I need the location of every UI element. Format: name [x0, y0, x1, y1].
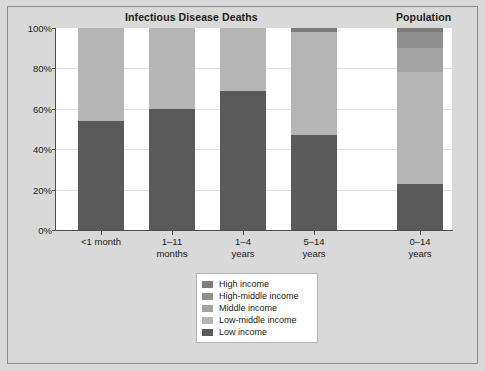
y-axis-tick-label: 60% [18, 103, 52, 114]
x-axis-line [55, 230, 453, 231]
x-axis-tick-mark [101, 231, 102, 235]
legend-item: High-middle income [202, 290, 311, 302]
x-axis-tick-label-line: 5–14 [269, 236, 359, 248]
x-axis-tick-label-line: 0–14 [375, 236, 465, 248]
legend-item-label: Low income [219, 327, 267, 337]
bar-segment [397, 72, 443, 183]
chart-legend: High incomeHigh-middle incomeMiddle inco… [196, 273, 318, 343]
bar-segment [291, 135, 337, 230]
bar-segment [291, 28, 337, 32]
bar-deaths-0 [78, 28, 124, 230]
x-axis-tick-mark [314, 231, 315, 235]
legend-item-label: High-middle income [219, 291, 299, 301]
y-axis-tick-mark [52, 230, 56, 231]
legend-item: Middle income [202, 302, 311, 314]
bar-deaths-1 [149, 28, 195, 230]
legend-item: Low-middle income [202, 314, 311, 326]
population-panel-title: Population [396, 11, 451, 23]
bar-segment [149, 109, 195, 230]
y-axis-tick-labels: 0%20%40%60%80%100% [12, 28, 52, 230]
legend-swatch-icon [202, 305, 213, 312]
legend-item-label: Middle income [219, 303, 277, 313]
y-axis-tick-label: 20% [18, 184, 52, 195]
legend-item: High income [202, 278, 311, 290]
y-axis-tick-label: 40% [18, 144, 52, 155]
x-axis-tick-label-line: years [375, 248, 465, 260]
plot-area [56, 28, 452, 230]
legend-item: Low income [202, 326, 311, 338]
bar-segment [397, 28, 443, 32]
x-axis-tick-mark [172, 231, 173, 235]
bar-segment [397, 32, 443, 48]
bar-segment [291, 32, 337, 135]
bar-segment [78, 28, 124, 121]
bar-segment [397, 48, 443, 72]
x-axis-tick-mark [243, 231, 244, 235]
deaths-panel-title: Infectious Disease Deaths [125, 11, 258, 23]
bar-deaths-3 [291, 28, 337, 230]
legend-swatch-icon [202, 317, 213, 324]
bar-segment [397, 184, 443, 230]
bar-segment [149, 28, 195, 109]
legend-item-label: Low-middle income [219, 315, 297, 325]
y-axis-tick-label: 0% [18, 225, 52, 236]
legend-swatch-icon [202, 329, 213, 336]
legend-swatch-icon [202, 281, 213, 288]
x-axis-tick-label: 5–14years [269, 236, 359, 259]
chart-figure: Infectious Disease Deaths Population 0%2… [0, 0, 485, 371]
bar-segment [78, 121, 124, 230]
bar-segment [220, 28, 266, 91]
bar-population-4 [397, 28, 443, 230]
legend-swatch-icon [202, 293, 213, 300]
bar-segment [220, 91, 266, 230]
x-axis-tick-label: 0–14years [375, 236, 465, 259]
bar-deaths-2 [220, 28, 266, 230]
legend-item-label: High income [219, 279, 269, 289]
y-axis-tick-label: 100% [18, 23, 52, 34]
y-axis-tick-label: 80% [18, 63, 52, 74]
x-axis-tick-mark [420, 231, 421, 235]
x-axis-tick-label-line: years [269, 248, 359, 260]
